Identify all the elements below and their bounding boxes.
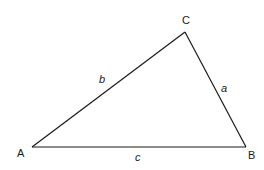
- side-label-b: b: [99, 73, 105, 85]
- side-b-line: [32, 32, 185, 147]
- side-label-a: a: [221, 82, 227, 94]
- side-label-c: c: [135, 151, 141, 163]
- vertex-label-c: C: [182, 14, 190, 26]
- triangle-edges: [32, 32, 246, 147]
- vertex-label-b: B: [248, 149, 255, 161]
- vertex-label-a: A: [17, 147, 25, 159]
- vertex-labels: A B C: [17, 14, 255, 161]
- side-a-line: [185, 32, 246, 147]
- side-labels: a b c: [99, 73, 227, 163]
- triangle-diagram: A B C a b c: [0, 0, 264, 170]
